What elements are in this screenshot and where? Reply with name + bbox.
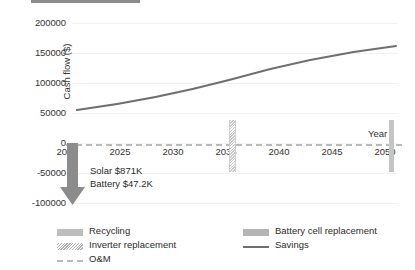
recycling-swatch-icon [57,229,83,236]
capital-cost-annotation: Solar $871K Battery $47.2K [90,164,153,190]
legend-label-recycling: Recycling [89,225,130,236]
inverter-replacement-swatch-icon [57,243,83,250]
gridline-minus100000 [72,203,398,204]
x-axis-title: Year [368,128,387,139]
x-tick-2050: 2050 [363,146,407,157]
annotation-line-battery: Battery $47.2K [90,177,153,190]
y-tick-minus50000: -50000 [0,168,66,178]
legend-label-battery-cell-replacement: Battery cell replacement [275,225,377,236]
capital-cost-arrow [60,143,86,207]
legend-label-inverter-replacement: Inverter replacement [89,239,176,250]
x-tick-2030: 2030 [151,146,195,157]
cash-flow-chart-figure: 200000 150000 100000 50000 0 -50000 -100… [0,0,415,270]
gridline-150000 [72,53,398,54]
bar-battery-cell-replacement-2051 [389,120,394,172]
gridline-100000 [72,83,398,84]
battery-cell-replacement-swatch-icon [243,229,269,236]
annotation-line-solar: Solar $871K [90,164,153,177]
cropped-top-bar [31,0,140,3]
x-tick-2040: 2040 [257,146,301,157]
y-tick-200000: 200000 [0,18,66,28]
y-axis-title: Cash flow ($) [61,24,72,120]
savings-line-icon [243,246,269,248]
x-tick-2045: 2045 [310,146,354,157]
gridline-200000 [72,23,398,24]
legend-label-savings: Savings [275,239,309,250]
x-tick-2025: 2025 [98,146,142,157]
gridline-50000 [72,113,398,114]
bar-inverter-replacement-2035 [229,120,236,172]
chart-legend: Recycling Inverter replacement O&M Batte… [0,222,415,270]
x-tick-2035: 2035 [204,146,248,157]
om-dashed-line-icon [57,260,83,262]
y-tick-minus100000: -100000 [0,198,66,208]
legend-label-om: O&M [89,253,111,264]
y-axis-title-wrap: Cash flow ($) [52,28,66,124]
